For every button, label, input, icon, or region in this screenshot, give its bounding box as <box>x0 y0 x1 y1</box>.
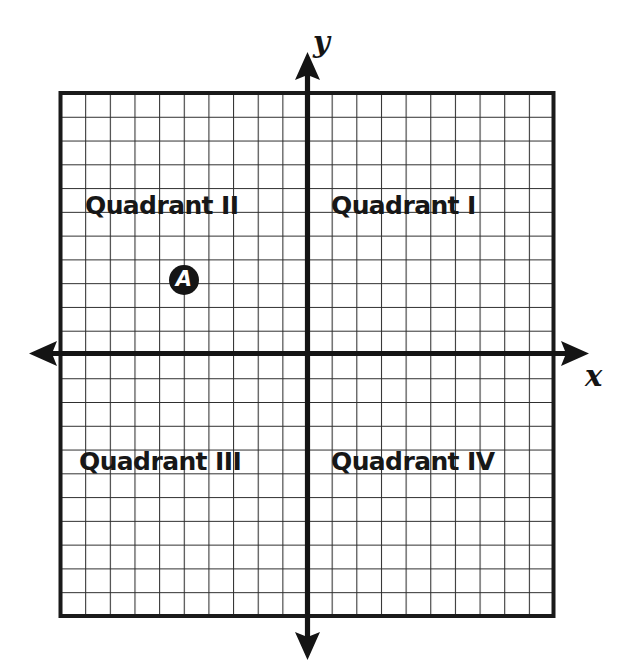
point-a-label: A <box>176 269 192 290</box>
quadrant-2-label: Quadrant II <box>85 193 238 218</box>
coordinate-plane-svg <box>0 0 627 670</box>
quadrant-3-label: Quadrant III <box>79 449 241 474</box>
coordinate-plane-figure: y x Quadrant II Quadrant I Quadrant III … <box>0 0 627 670</box>
quadrant-4-label: Quadrant IV <box>331 449 495 474</box>
point-a-marker: A <box>169 265 199 295</box>
x-axis-label: x <box>585 362 602 391</box>
y-axis-label: y <box>313 28 330 57</box>
quadrant-1-label: Quadrant I <box>331 193 476 218</box>
